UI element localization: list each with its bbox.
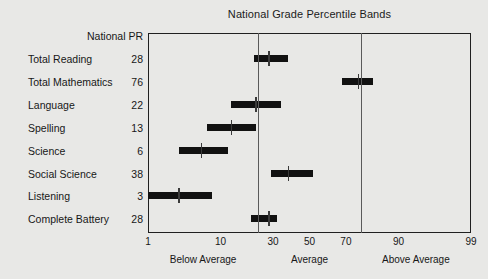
percentile-marker [231, 120, 232, 135]
subtest-row: Complete Battery28 [0, 213, 146, 227]
percentile-marker [268, 211, 269, 226]
subtest-row: Science6 [0, 145, 146, 159]
national-pr-header: National PR [0, 30, 146, 44]
subtest-national-pr: 28 [131, 213, 143, 225]
percentile-marker [288, 166, 289, 181]
row-label-column: National PRTotal Reading28Total Mathemat… [0, 0, 146, 279]
subtest-national-pr: 76 [131, 76, 143, 88]
subtest-row: Listening3 [0, 190, 146, 204]
subtest-national-pr: 13 [131, 122, 143, 134]
subtest-name: Social Science [28, 168, 97, 180]
national-pr-header-label: National PR [87, 30, 143, 42]
x-axis-tick-label: 50 [304, 236, 315, 247]
percentile-band [148, 192, 212, 199]
percentile-band [271, 170, 313, 177]
subtest-name: Total Mathematics [28, 76, 113, 88]
subtest-row: Total Mathematics76 [0, 76, 146, 90]
percentile-marker [178, 188, 179, 203]
subtest-name: Science [28, 145, 65, 157]
x-axis-tick-label: 90 [393, 236, 404, 247]
subtest-name: Spelling [28, 122, 65, 134]
performance-zone-label: Average [291, 254, 328, 265]
chart-title: National Grade Percentile Bands [148, 8, 471, 20]
percentile-marker [358, 74, 359, 89]
subtest-row: Spelling13 [0, 122, 146, 136]
percentile-band [251, 215, 277, 222]
subtest-name: Language [28, 99, 75, 111]
subtest-national-pr: 6 [137, 145, 143, 157]
subtest-national-pr: 3 [137, 190, 143, 202]
zone-divider [258, 33, 259, 233]
subtest-row: Social Science38 [0, 168, 146, 182]
subtest-name: Total Reading [28, 53, 92, 65]
subtest-national-pr: 22 [131, 99, 143, 111]
x-axis-tick-label: 1 [145, 236, 151, 247]
percentile-marker [201, 143, 202, 158]
subtest-national-pr: 38 [131, 168, 143, 180]
percentile-marker [268, 51, 269, 66]
zone-divider [361, 33, 362, 233]
performance-zone-label: Below Average [170, 254, 237, 265]
subtest-row: Total Reading28 [0, 53, 146, 67]
subtest-row: Language22 [0, 99, 146, 113]
percentile-band [179, 147, 228, 154]
subtest-national-pr: 28 [131, 53, 143, 65]
x-axis-tick-label: 99 [465, 236, 476, 247]
subtest-name: Listening [28, 190, 70, 202]
x-axis-tick-label: 30 [268, 236, 279, 247]
percentile-bands-chart: National Grade Percentile Bands National… [0, 0, 488, 279]
subtest-name: Complete Battery [28, 213, 109, 225]
percentile-marker [255, 97, 256, 112]
x-axis-tick-label: 70 [340, 236, 351, 247]
plot-frame [148, 33, 471, 233]
x-axis-tick-label: 10 [215, 236, 226, 247]
performance-zone-label: Above Average [382, 254, 450, 265]
